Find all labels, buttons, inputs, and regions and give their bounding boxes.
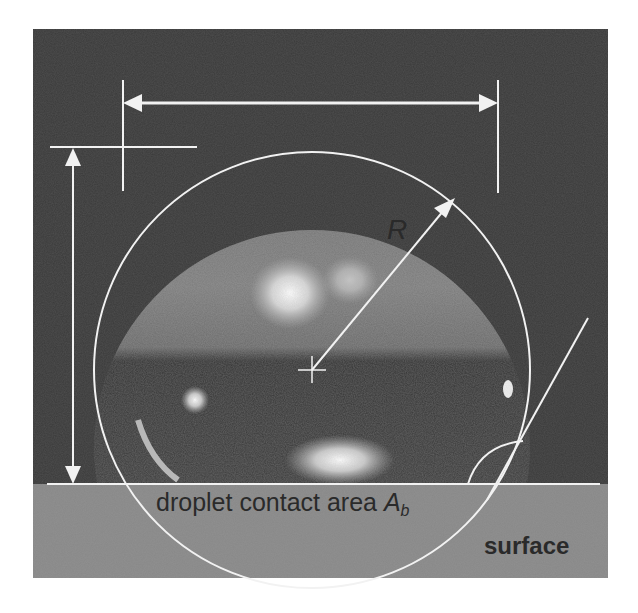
- radius-label: R: [387, 214, 407, 245]
- contact-area-label: droplet contact area Ab: [156, 488, 410, 519]
- surface-label: surface: [484, 532, 569, 559]
- droplet-contact-angle-figure: R droplet contact area Ab surface: [0, 0, 638, 613]
